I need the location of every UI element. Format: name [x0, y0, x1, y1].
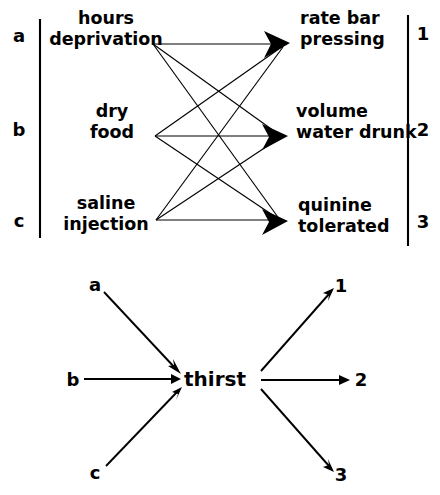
edge-c-thirst [106, 392, 177, 466]
lower-output-marker-3: 3 [335, 464, 348, 485]
arrowhead-to-2 [262, 124, 288, 150]
figure-container: a b c 1 2 3 hours deprivation dry food s… [0, 0, 440, 495]
node-saline-injection-line1: saline [77, 193, 136, 213]
upper-panel: a b c 1 2 3 hours deprivation dry food s… [13, 8, 430, 246]
upper-right-marker-3: 3 [417, 211, 430, 232]
diagram-canvas: a b c 1 2 3 hours deprivation dry food s… [0, 0, 440, 495]
node-quinine-tolerated: quinine tolerated [298, 195, 389, 236]
node-rate-bar-pressing: rate bar pressing [300, 8, 385, 49]
lower-output-marker-2: 2 [355, 369, 368, 390]
arrowhead-c-thirst [172, 387, 182, 400]
node-dry-food-line1: dry [96, 101, 129, 121]
lower-output-marker-1: 1 [335, 275, 348, 296]
lower-input-marker-a: a [89, 274, 101, 295]
edge-a-2 [153, 44, 281, 136]
node-hours-deprivation-line1: hours [78, 8, 134, 28]
node-volume-water-drunk-line2: water drunk [296, 122, 417, 142]
upper-left-marker-b: b [13, 119, 26, 140]
lower-input-edges [84, 292, 182, 466]
node-quinine-tolerated-line1: quinine [298, 195, 372, 215]
upper-right-marker-2: 2 [417, 119, 430, 140]
arrowhead-b-thirst [171, 374, 181, 384]
node-dry-food: dry food [90, 101, 134, 142]
node-hours-deprivation-line2: deprivation [49, 29, 163, 49]
lower-panel: thirst a b c 1 2 3 [67, 274, 368, 485]
upper-left-marker-a: a [13, 25, 25, 46]
edge-thirst-3 [261, 389, 329, 466]
node-quinine-tolerated-line2: tolerated [298, 216, 389, 236]
edge-c-1 [156, 47, 283, 220]
node-dry-food-line2: food [90, 122, 134, 142]
upper-edges [153, 44, 283, 220]
edge-thirst-1 [261, 294, 329, 371]
node-volume-water-drunk-line1: volume [296, 101, 368, 121]
arrowhead-thirst-2 [339, 375, 350, 385]
node-volume-water-drunk: volume water drunk [296, 101, 417, 142]
edge-b-3 [155, 136, 280, 220]
edge-a-3 [153, 44, 280, 220]
node-hours-deprivation: hours deprivation [49, 8, 163, 49]
lower-input-marker-b: b [67, 369, 80, 390]
upper-arrowheads [262, 31, 290, 235]
upper-right-marker-1: 1 [417, 23, 430, 44]
node-saline-injection: saline injection [63, 193, 149, 234]
node-saline-injection-line2: injection [63, 214, 149, 234]
edge-a-thirst [104, 292, 176, 369]
node-rate-bar-pressing-line2: pressing [300, 29, 385, 49]
lower-input-marker-c: c [90, 462, 101, 483]
thirst-node-label: thirst [184, 367, 246, 391]
lower-output-edges [261, 288, 350, 472]
upper-left-marker-c: c [14, 210, 25, 231]
node-rate-bar-pressing-line1: rate bar [300, 8, 380, 28]
